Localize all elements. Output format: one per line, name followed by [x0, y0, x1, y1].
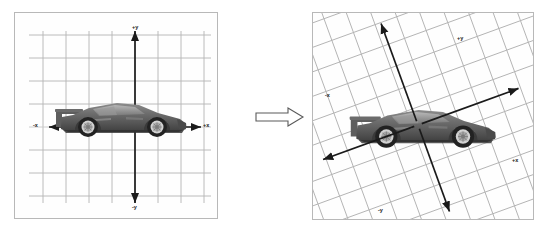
axis-label-y-positive-original: +y: [132, 25, 138, 31]
panel-rotated-coordinate-system: +y -y -x +x: [312, 12, 534, 220]
axis-label-x-negative-original: -x: [33, 123, 38, 129]
axis-label-x-negative-rotated: -x: [325, 93, 330, 99]
panel-rotated-inner: +y -y -x +x: [313, 13, 533, 219]
panel-original-coordinate-system: +y -y -x +x: [14, 12, 218, 219]
axes-original: [15, 13, 217, 218]
axis-x-negative: [323, 126, 414, 159]
panel-original-inner: +y -y -x +x: [15, 13, 217, 218]
transformation-arrow: [255, 105, 305, 129]
axis-y-negative: [419, 129, 449, 212]
axes-rotated: [313, 13, 533, 219]
axis-x-positive: [422, 88, 519, 123]
axis-label-y-negative-rotated: -y: [378, 208, 383, 214]
axis-label-y-positive-rotated: +y: [457, 36, 463, 42]
figure-root: +y -y -x +x: [0, 0, 549, 233]
axis-y-positive: [381, 24, 417, 122]
axis-label-y-negative-original: -y: [132, 205, 137, 211]
arrow-right-icon: [256, 108, 303, 126]
axis-label-x-positive-rotated: +x: [512, 158, 518, 164]
axis-label-x-positive-original: +x: [203, 123, 209, 129]
